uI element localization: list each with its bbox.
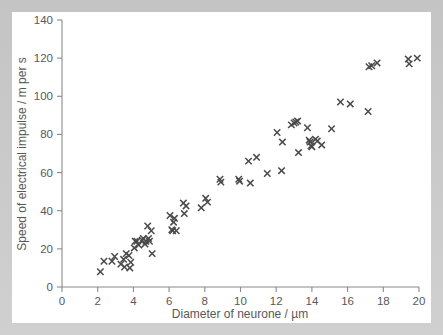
x-tick-label: 0 [59,295,65,307]
data-point-marker [126,252,132,258]
data-point-marker [264,170,270,176]
axes [62,20,419,287]
chart-card: 020406080100120140 02468101214161820 Dia… [12,12,431,323]
y-tick-label: 0 [47,281,53,293]
data-point-marker [279,139,285,145]
y-tick-label: 40 [40,205,53,217]
data-point-marker [406,61,412,67]
data-point-marker [304,125,310,131]
data-point-marker [127,265,133,271]
y-tick-label: 140 [34,14,53,26]
data-point-marker [274,129,280,135]
data-point-marker [245,158,251,164]
y-axis-ticks: 020406080100120140 [34,14,62,293]
data-point-marker [149,250,155,256]
x-tick-label: 16 [341,295,354,307]
x-axis-ticks: 02468101214161820 [59,287,426,307]
data-point-marker [414,55,420,61]
data-point-marker [253,154,259,160]
data-point-marker [101,258,107,264]
y-tick-label: 60 [40,167,53,179]
y-tick-label: 120 [34,52,53,64]
y-tick-label: 100 [34,90,53,102]
data-point-marker [173,228,179,234]
x-tick-label: 6 [166,295,172,307]
data-point-marker [247,180,253,186]
x-tick-label: 4 [130,295,137,307]
scatter-chart: 020406080100120140 02468101214161820 Dia… [12,12,431,323]
data-point-marker [319,142,325,148]
x-tick-label: 20 [413,295,426,307]
data-point-marker [337,99,343,105]
figure-background: 020406080100120140 02468101214161820 Dia… [0,0,443,335]
data-point-marker [278,167,284,173]
x-tick-label: 12 [270,295,283,307]
y-tick-label: 80 [40,128,53,140]
data-point-marker [128,259,134,265]
data-point-marker [183,203,189,209]
x-tick-label: 8 [202,295,208,307]
data-points [97,55,420,275]
x-axis-title: Diameter of neurone / µm [172,307,308,321]
data-point-marker [97,269,103,275]
data-point-marker [198,205,204,211]
data-point-marker [347,101,353,107]
y-axis-title: Speed of electrical impulse / m per s [15,57,29,250]
x-tick-label: 18 [377,295,390,307]
y-tick-label: 20 [40,243,53,255]
data-point-marker [365,108,371,114]
x-tick-label: 10 [234,295,247,307]
x-tick-label: 2 [94,295,100,307]
x-tick-label: 14 [306,295,319,307]
data-point-marker [295,149,301,155]
data-point-marker [328,126,334,132]
data-point-marker [181,210,187,216]
